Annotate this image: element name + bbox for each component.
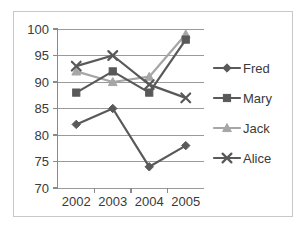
data-series bbox=[72, 30, 190, 171]
legend-item-fred[interactable]: Fred bbox=[214, 61, 270, 76]
square-marker bbox=[182, 36, 189, 43]
x-axis-tickmarks bbox=[95, 188, 168, 193]
y-tick-label: 95 bbox=[35, 48, 49, 63]
series-fred bbox=[72, 104, 190, 171]
legend-label: Fred bbox=[243, 61, 270, 76]
y-tick-label: 90 bbox=[35, 75, 49, 90]
gridlines bbox=[58, 29, 204, 188]
legend-item-alice[interactable]: Alice bbox=[214, 151, 271, 166]
series-line bbox=[76, 109, 186, 167]
diamond-marker bbox=[72, 120, 80, 128]
x-tick-label: 2002 bbox=[62, 194, 91, 209]
chart-container: 707580859095100 2002200320042005 FredMar… bbox=[13, 11, 293, 217]
y-tick-label: 75 bbox=[35, 154, 49, 169]
series-line bbox=[76, 40, 186, 93]
x-axis-labels: 2002200320042005 bbox=[62, 194, 200, 209]
square-marker bbox=[223, 94, 230, 101]
legend-label: Mary bbox=[243, 91, 272, 106]
y-tick-label: 70 bbox=[35, 181, 49, 196]
legend-label: Jack bbox=[243, 121, 270, 136]
square-marker bbox=[146, 89, 153, 96]
square-marker bbox=[73, 89, 80, 96]
legend-item-jack[interactable]: Jack bbox=[214, 121, 270, 136]
x-tick-label: 2003 bbox=[98, 194, 127, 209]
diamond-marker bbox=[223, 64, 231, 72]
y-tick-label: 80 bbox=[35, 128, 49, 143]
y-tick-label: 100 bbox=[27, 22, 49, 37]
series-line bbox=[76, 34, 186, 82]
y-axis-labels: 707580859095100 bbox=[27, 22, 49, 196]
series-mary bbox=[73, 36, 190, 96]
x-tick-label: 2004 bbox=[135, 194, 164, 209]
square-marker bbox=[109, 68, 116, 75]
y-tick-label: 85 bbox=[35, 101, 49, 116]
chart-legend: FredMaryJackAlice bbox=[214, 61, 272, 166]
legend-item-mary[interactable]: Mary bbox=[214, 91, 272, 106]
legend-label: Alice bbox=[243, 151, 271, 166]
x-tick-label: 2005 bbox=[171, 194, 200, 209]
line-chart: 707580859095100 2002200320042005 FredMar… bbox=[14, 12, 292, 216]
